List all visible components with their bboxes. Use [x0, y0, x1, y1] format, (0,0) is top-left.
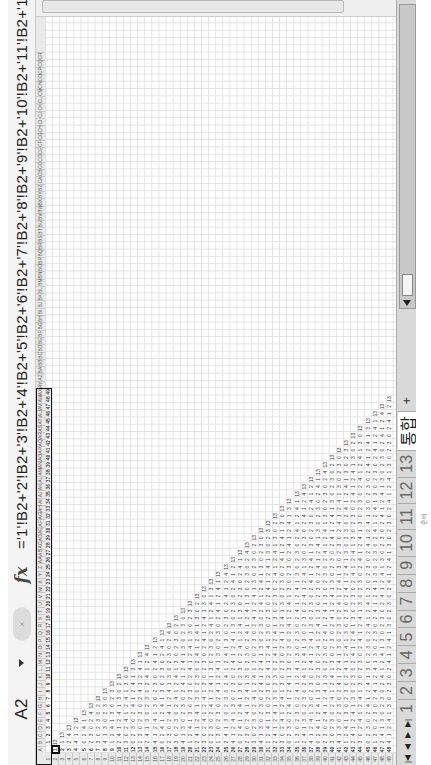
- cell[interactable]: 2: [301, 542, 308, 549]
- cell[interactable]: 0: [372, 724, 379, 731]
- column-header-ca[interactable]: CA: [36, 176, 45, 183]
- cell[interactable]: 3: [230, 622, 237, 629]
- cell[interactable]: 0: [301, 710, 308, 717]
- cell[interactable]: 3: [279, 658, 286, 665]
- cell[interactable]: 2: [365, 731, 372, 738]
- cell[interactable]: 4: [272, 710, 279, 717]
- cell[interactable]: 0: [251, 629, 258, 636]
- cell[interactable]: 1: [308, 549, 315, 556]
- cell[interactable]: 3: [336, 702, 343, 709]
- cell[interactable]: 2: [173, 702, 180, 709]
- cell[interactable]: 2: [322, 476, 329, 483]
- cell[interactable]: 2: [180, 629, 187, 636]
- cell[interactable]: 3: [123, 680, 130, 687]
- cell[interactable]: 1: [286, 512, 293, 519]
- cell[interactable]: 4: [215, 607, 222, 614]
- column-header-cj[interactable]: CJ: [36, 111, 45, 118]
- cell[interactable]: 2: [237, 710, 244, 717]
- cell[interactable]: 11: [123, 746, 130, 753]
- cell[interactable]: 2: [152, 688, 159, 695]
- cell[interactable]: 0: [308, 593, 315, 600]
- cell[interactable]: 3: [372, 491, 379, 498]
- cell[interactable]: 3: [365, 724, 372, 731]
- cell[interactable]: 0: [251, 731, 258, 738]
- cell[interactable]: 3: [336, 644, 343, 651]
- cell[interactable]: 4: [372, 666, 379, 673]
- column-header-ak[interactable]: AK: [36, 483, 45, 490]
- cell[interactable]: 2: [66, 739, 73, 746]
- cell[interactable]: 1: [294, 658, 301, 665]
- cell[interactable]: 16: [45, 629, 52, 636]
- cell[interactable]: 2: [308, 527, 315, 534]
- cell[interactable]: 8: [102, 746, 109, 753]
- cell[interactable]: 2: [315, 710, 322, 717]
- cell[interactable]: 2: [372, 454, 379, 461]
- cell[interactable]: 0: [301, 607, 308, 614]
- cell[interactable]: 4: [223, 593, 230, 600]
- cell[interactable]: 1: [208, 695, 215, 702]
- cell[interactable]: 4: [215, 666, 222, 673]
- cell[interactable]: 2: [301, 680, 308, 687]
- column-header-cd[interactable]: CD: [36, 154, 45, 161]
- cell[interactable]: 0: [258, 556, 265, 563]
- cell[interactable]: 1: [123, 688, 130, 695]
- cell[interactable]: 3: [315, 666, 322, 673]
- cell[interactable]: 4: [265, 666, 272, 673]
- cell[interactable]: 1: [301, 505, 308, 512]
- cell[interactable]: 2: [343, 593, 350, 600]
- cell[interactable]: 1: [272, 564, 279, 571]
- cell[interactable]: 2: [230, 666, 237, 673]
- cell[interactable]: 3: [336, 622, 343, 629]
- cell[interactable]: 0: [372, 483, 379, 490]
- cell[interactable]: 0: [357, 512, 364, 519]
- cell[interactable]: 13: [365, 418, 372, 425]
- cell[interactable]: 3: [365, 425, 372, 432]
- cell[interactable]: 0: [329, 651, 336, 658]
- cell[interactable]: 4: [386, 739, 393, 746]
- cell[interactable]: 28: [45, 542, 52, 549]
- formula-input[interactable]: ='1'!B2+'2'!B2+'3'!B2+'4'!B2+'5'!B2+'6'!…: [13, 0, 30, 553]
- row-header-33[interactable]: 33: [272, 753, 279, 765]
- cell[interactable]: 3: [130, 666, 137, 673]
- cell[interactable]: 4: [308, 717, 315, 724]
- cell[interactable]: 4: [194, 710, 201, 717]
- cell[interactable]: 1: [301, 564, 308, 571]
- cell[interactable]: 1: [109, 739, 116, 746]
- cell[interactable]: 1: [194, 724, 201, 731]
- cell[interactable]: 23: [208, 746, 215, 753]
- cell[interactable]: 1: [180, 651, 187, 658]
- cell[interactable]: 2: [258, 629, 265, 636]
- name-box[interactable]: A2: [10, 653, 34, 765]
- cell[interactable]: 2: [365, 527, 372, 534]
- cell[interactable]: 3: [308, 542, 315, 549]
- cell[interactable]: 13: [350, 432, 357, 439]
- cell[interactable]: 2: [237, 651, 244, 658]
- cell[interactable]: 3: [208, 666, 215, 673]
- cell[interactable]: 0: [223, 710, 230, 717]
- cell[interactable]: 1: [116, 724, 123, 731]
- cell[interactable]: 4: [336, 680, 343, 687]
- column-header-cm[interactable]: CM: [36, 89, 45, 96]
- cell[interactable]: 3: [144, 695, 151, 702]
- cell[interactable]: 13: [215, 571, 222, 578]
- cell[interactable]: 4: [350, 549, 357, 556]
- cell[interactable]: 3: [357, 600, 364, 607]
- cell[interactable]: 2: [223, 578, 230, 585]
- row-header-16[interactable]: 16: [152, 753, 159, 765]
- cell[interactable]: 18: [173, 746, 180, 753]
- row-header-28[interactable]: 28: [237, 753, 244, 765]
- cell[interactable]: 2: [244, 717, 251, 724]
- cell[interactable]: 2: [279, 666, 286, 673]
- cell[interactable]: 1: [265, 578, 272, 585]
- cell[interactable]: 2: [336, 688, 343, 695]
- cell[interactable]: 3: [357, 739, 364, 746]
- cell[interactable]: 13: [194, 593, 201, 600]
- cell[interactable]: 0: [272, 666, 279, 673]
- cell[interactable]: 2: [350, 476, 357, 483]
- cell[interactable]: 1: [81, 717, 88, 724]
- column-header-cc[interactable]: CC: [36, 162, 45, 169]
- cell[interactable]: 3: [123, 739, 130, 746]
- cell[interactable]: 3: [194, 695, 201, 702]
- cell[interactable]: 2: [357, 542, 364, 549]
- cell[interactable]: 1: [102, 731, 109, 738]
